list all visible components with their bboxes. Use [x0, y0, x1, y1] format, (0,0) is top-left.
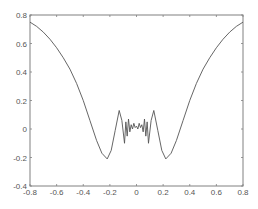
y-tick-label: 0.2: [16, 97, 28, 106]
x-tick-label: -0.2: [103, 188, 117, 197]
x-tick-label: -0.6: [50, 188, 64, 197]
y-axis: 0.80.60.40.20-0.2-0.4: [13, 11, 243, 191]
x-tick-label: 0.6: [211, 188, 223, 197]
x-tick-label: 0: [134, 188, 139, 197]
axes-frame: [30, 15, 243, 186]
y-tick-label: -0.4: [13, 182, 27, 191]
x-tick-label: -0.4: [76, 188, 90, 197]
y-tick-label: 0: [23, 125, 28, 134]
x-tick-label: 0.8: [237, 188, 249, 197]
x-axis: -0.8-0.6-0.4-0.200.20.40.60.8: [23, 15, 249, 197]
y-tick-label: 0.6: [16, 40, 28, 49]
y-tick-label: -0.2: [13, 154, 27, 163]
y-tick-label: 0.8: [16, 11, 28, 20]
x-tick-label: 0.2: [158, 188, 170, 197]
line-chart: -0.8-0.6-0.4-0.200.20.40.60.8 0.80.60.40…: [0, 0, 258, 209]
data-line: [30, 22, 243, 159]
x-tick-label: 0.4: [184, 188, 196, 197]
y-tick-label: 0.4: [16, 68, 28, 77]
